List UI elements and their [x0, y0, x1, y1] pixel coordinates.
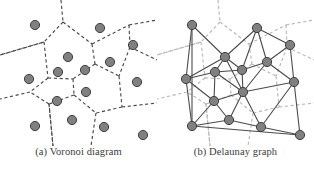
voronoi-edge	[205, 78, 230, 79]
site-point	[289, 77, 298, 86]
figure-container: (a) Voronoi diagram (b) Delaunay graph	[0, 0, 314, 175]
voronoi-edge	[44, 42, 48, 78]
delaunay-edge	[257, 28, 267, 62]
site-point	[181, 74, 190, 83]
site-point	[210, 67, 219, 76]
voronoi-edge	[48, 78, 73, 79]
panel-voronoi: (a) Voronoi diagram	[0, 0, 157, 175]
voronoi-edge	[49, 104, 53, 146]
voronoi-edge	[248, 113, 253, 146]
site-point	[95, 23, 104, 32]
voronoi-edge	[206, 104, 210, 146]
delaunay-edge	[186, 79, 192, 126]
site-point	[105, 57, 114, 66]
site-point	[187, 121, 196, 130]
site-point	[224, 115, 233, 124]
delaunay-edge	[215, 72, 243, 92]
voronoi-edge	[157, 92, 187, 99]
site-point	[262, 57, 271, 66]
site-point	[99, 122, 108, 131]
delaunay-edge	[294, 82, 300, 135]
voronoi-edge	[187, 92, 206, 104]
voronoi-edge	[122, 103, 157, 107]
voronoi-diagram-canvas	[0, 0, 157, 146]
voronoi-edge	[44, 22, 63, 42]
site-point	[63, 52, 72, 61]
delaunay-edge	[186, 25, 192, 79]
voronoi-edge	[74, 95, 96, 113]
site-point	[52, 96, 61, 105]
voronoi-edge	[92, 44, 95, 64]
voronoi-edge	[91, 113, 96, 146]
delaunay-edge	[192, 126, 300, 135]
site-point	[252, 23, 261, 32]
site-point	[238, 87, 247, 96]
voronoi-edge	[30, 92, 49, 104]
site-point	[256, 122, 265, 131]
voronoi-edge	[0, 92, 30, 99]
voronoi-edge	[201, 42, 205, 78]
site-point	[237, 65, 246, 74]
voronoi-edge	[218, 0, 220, 22]
site-point	[128, 40, 137, 49]
site-point	[80, 65, 89, 74]
voronoi-edge	[230, 79, 231, 95]
voronoi-edges-group	[157, 0, 314, 146]
site-point	[81, 87, 90, 96]
delaunay-edge	[192, 120, 229, 126]
site-point	[285, 40, 294, 49]
panel-delaunay: (b) Delaunay graph	[157, 0, 314, 175]
voronoi-edge	[73, 79, 74, 95]
caption-delaunay: (b) Delaunay graph	[157, 146, 314, 157]
caption-voronoi: (a) Voronoi diagram	[0, 146, 157, 157]
site-point	[187, 20, 196, 29]
voronoi-edge	[63, 22, 92, 44]
delaunay-edge	[243, 82, 294, 92]
voronoi-edges-group	[0, 0, 157, 146]
voronoi-edge	[96, 107, 122, 113]
delaunay-edge	[192, 25, 225, 57]
site-point	[67, 115, 76, 124]
site-point	[30, 20, 39, 29]
voronoi-edge	[119, 47, 130, 76]
delaunay-graph-canvas	[157, 0, 314, 146]
voronoi-edge	[220, 22, 249, 44]
site-point	[30, 121, 39, 130]
site-point	[24, 74, 33, 83]
voronoi-edge	[129, 20, 157, 25]
site-point	[132, 77, 141, 86]
voronoi-edge	[286, 20, 314, 25]
delaunay-edge	[257, 28, 290, 45]
site-point	[220, 52, 229, 61]
site-point	[138, 130, 147, 139]
site-point	[53, 67, 62, 76]
voronoi-edge	[119, 76, 122, 107]
site-point	[295, 130, 304, 139]
site-point	[209, 96, 218, 105]
voronoi-edge	[201, 22, 220, 42]
voronoi-edge	[61, 0, 63, 22]
